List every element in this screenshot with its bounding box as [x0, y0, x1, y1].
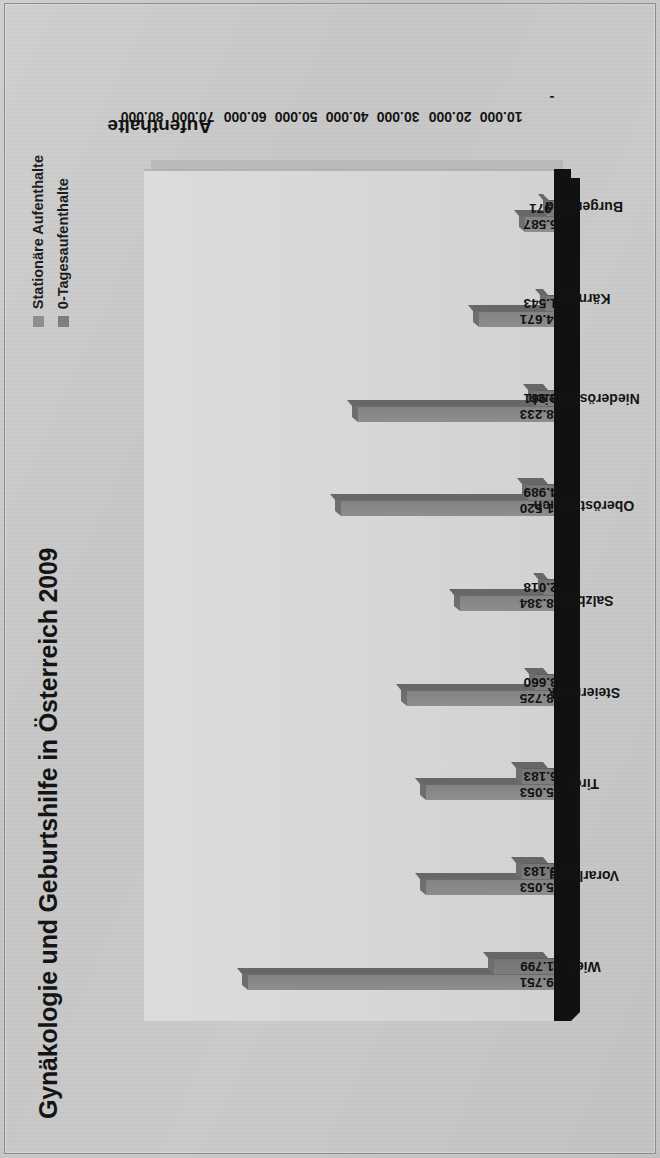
bar-group: 38.2333.961	[144, 358, 554, 453]
scanned-page: Gynäkologie und Geburtshilfe in Österrei…	[0, 0, 660, 1158]
legend-label-tagesaufenthalte: 0-Tagesaufenthalte	[55, 178, 71, 309]
legend-label-stationaere: Stationäre Aufenthalte	[30, 155, 46, 309]
bar-chart: Gynäkologie und Geburtshilfe in Österrei…	[12, 9, 648, 1149]
axis-title: Aufenthalte	[108, 115, 213, 137]
bar-value-label: 2.018	[524, 579, 558, 594]
bar-1[interactable]: 1.543	[546, 295, 554, 311]
bar-value-label: 14.671	[520, 311, 561, 326]
category-label-text: Niederösterreich	[528, 344, 639, 408]
rotated-chart-wrapper: Gynäkologie und Geburtshilfe in Österrei…	[12, 9, 648, 1149]
bar-1[interactable]: 6.183	[522, 768, 554, 784]
category-label-text: Burgenland	[545, 151, 623, 215]
bar-value-label: 59.751	[520, 974, 561, 989]
bar-group: 14.6711.543	[144, 264, 554, 359]
axis-tick-label: 50.000	[274, 108, 317, 124]
bar-0[interactable]: 41.520	[341, 500, 554, 516]
bar-group: 41.5204.989	[144, 453, 554, 548]
bar-value-label: 1.543	[524, 295, 558, 310]
category-label-text: Wien	[567, 911, 600, 975]
bar-group: 25.0536.183	[144, 737, 554, 832]
bar-group: 59.75111.799	[144, 926, 554, 1021]
axis-tick-label: 40.000	[326, 108, 369, 124]
bar-value-label: 6.183	[524, 769, 558, 784]
bar-0[interactable]: 5.587	[525, 216, 554, 232]
category-label-text: Salzburg	[554, 545, 613, 609]
axis-tick-label: 30.000	[377, 108, 420, 124]
category-label-text: Oberösterreich	[534, 449, 634, 513]
bar-1[interactable]: 11.799	[494, 958, 554, 974]
bar-group: 5.587971	[144, 169, 554, 264]
chart-legend: Stationäre Aufenthalte 0-Tagesaufenthalt…	[30, 155, 71, 327]
bar-0[interactable]: 38.233	[358, 406, 554, 422]
category-label-text: Tirol	[569, 728, 599, 792]
bar-value-label: 25.053	[520, 785, 561, 800]
category-label-text: Vorarlberg	[549, 820, 619, 884]
axis-tick-label: -	[550, 89, 555, 105]
bar-0[interactable]: 59.751	[248, 974, 554, 990]
bar-group: 18.3842.018	[144, 548, 554, 643]
legend-swatch-tagesaufenthalte	[58, 316, 69, 327]
axis-tick-label: 20.000	[428, 108, 471, 124]
axis-tick-label: 60.000	[223, 108, 266, 124]
category-label-text: Kärnten	[558, 242, 611, 306]
bar-group: 28.7253.660	[144, 642, 554, 737]
bar-value-label: 11.799	[520, 958, 561, 973]
chart-title: Gynäkologie und Geburtshilfe in Österrei…	[34, 548, 63, 1119]
category-label: Niederösterreich	[578, 352, 648, 463]
legend-item-stationaere[interactable]: Stationäre Aufenthalte	[30, 155, 46, 327]
category-label: Wien	[578, 930, 648, 1021]
bar-1[interactable]: 2.018	[544, 579, 554, 595]
bar-value-label: 5.587	[524, 217, 558, 232]
bar-groups: 59.75111.79925.0536.18325.0536.18328.725…	[144, 169, 554, 1021]
bar-group: 25.0536.183	[144, 832, 554, 927]
bar-0[interactable]: 28.725	[407, 690, 554, 706]
bar-0[interactable]: 25.053	[426, 879, 554, 895]
category-labels: WienVorarlbergTirolSteiermarkSalzburgObe…	[578, 169, 648, 1021]
bar-0[interactable]: 25.053	[426, 784, 554, 800]
category-label-text: Steiermark	[548, 637, 620, 701]
bar-0[interactable]: 18.384	[460, 595, 554, 611]
bar-0[interactable]: 14.671	[479, 311, 554, 327]
legend-swatch-stationaere	[33, 316, 44, 327]
axis-tick-label: 10.000	[479, 108, 522, 124]
bar-value-label: 38.233	[520, 406, 561, 421]
category-label: Kärnten	[578, 260, 648, 351]
legend-item-tagesaufenthalte[interactable]: 0-Tagesaufenthalte	[55, 155, 71, 327]
